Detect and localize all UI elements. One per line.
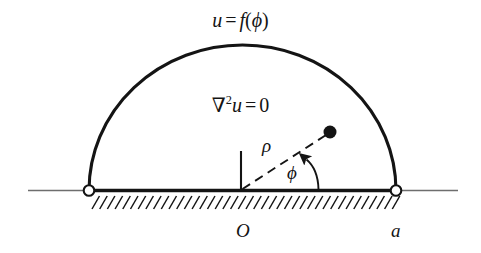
boundary-condition-label: u=f(ϕ) — [0, 10, 481, 30]
pde-equals: = — [242, 94, 259, 116]
bc-paren-close: ) — [262, 9, 269, 31]
hatching-group — [92, 196, 400, 209]
left-endpoint-node — [84, 185, 95, 196]
angle-label-phi: ϕ — [287, 163, 297, 182]
semicircle-boundary-arc — [89, 45, 396, 190]
origin-label: O — [236, 221, 250, 240]
pde-variable: u — [232, 94, 242, 116]
figure-container: u=f(ϕ) ∇2u=0 ρ ϕ O a — [0, 0, 481, 253]
interior-point-dot — [324, 126, 337, 139]
radius-dashed-line — [243, 135, 327, 189]
bc-argument: ϕ — [252, 9, 262, 31]
endpoint-label-a: a — [391, 221, 401, 240]
bc-equals: = — [222, 9, 239, 31]
bc-paren-open: ( — [245, 9, 252, 31]
radius-label-rho: ρ — [262, 136, 271, 155]
laplace-equation-label: ∇2u=0 — [0, 94, 481, 115]
diagram-canvas — [0, 0, 481, 253]
angle-arc-phi — [307, 160, 319, 190]
pde-value: 0 — [259, 94, 269, 116]
right-endpoint-node — [391, 185, 402, 196]
bc-lhs: u — [212, 9, 222, 31]
nabla-icon: ∇ — [212, 94, 226, 116]
